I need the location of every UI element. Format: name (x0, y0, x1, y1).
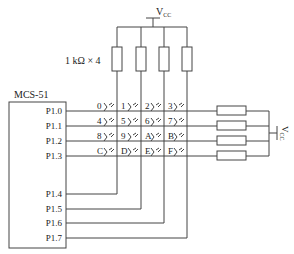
pin-p1-6: P1.6 (46, 218, 63, 228)
vcc-right-label: VCC (279, 126, 290, 141)
key-6: 6 (145, 116, 150, 126)
key-c: C (97, 146, 103, 156)
key-a: A (145, 131, 152, 141)
column-pullups (112, 27, 192, 71)
pin-p1-4: P1.4 (46, 189, 63, 199)
key-d: D (121, 146, 128, 156)
key-2: 2 (145, 101, 150, 111)
resistor-label: 1 kΩ × 4 (65, 55, 101, 66)
pin-p1-2: P1.2 (46, 136, 62, 146)
vcc-top-symbol (146, 18, 160, 27)
key-b: B (168, 131, 174, 141)
key-1: 1 (121, 101, 126, 111)
resistor-col-0 (112, 47, 122, 71)
pin-p1-5: P1.5 (46, 204, 63, 214)
key-9: 9 (121, 131, 126, 141)
key-e: E (145, 146, 151, 156)
key-8: 8 (97, 131, 102, 141)
resistor-row-3 (217, 151, 246, 160)
resistor-col-1 (136, 47, 146, 71)
chip-label: MCS-51 (14, 89, 48, 100)
pin-p1-3: P1.3 (46, 151, 63, 161)
pin-p1-1: P1.1 (46, 121, 62, 131)
pin-p1-7: P1.7 (46, 233, 63, 243)
resistor-row-1 (217, 121, 246, 130)
row-pullups (217, 106, 277, 160)
key-3: 3 (168, 101, 173, 111)
vcc-top-label: VCC (156, 6, 171, 18)
key-4: 4 (97, 116, 102, 126)
resistor-row-0 (217, 106, 246, 115)
key-7: 7 (168, 116, 173, 126)
schematic: VCC 1 kΩ × 4 MCS-51 P1.0 P1.1 P1.2 P1.3 … (0, 0, 294, 254)
resistor-col-2 (159, 47, 169, 71)
resistor-row-2 (217, 136, 246, 145)
key-5: 5 (121, 116, 126, 126)
key-f: F (168, 146, 173, 156)
pin-p1-0: P1.0 (46, 106, 63, 116)
key-0: 0 (97, 101, 102, 111)
resistor-col-3 (182, 47, 192, 71)
